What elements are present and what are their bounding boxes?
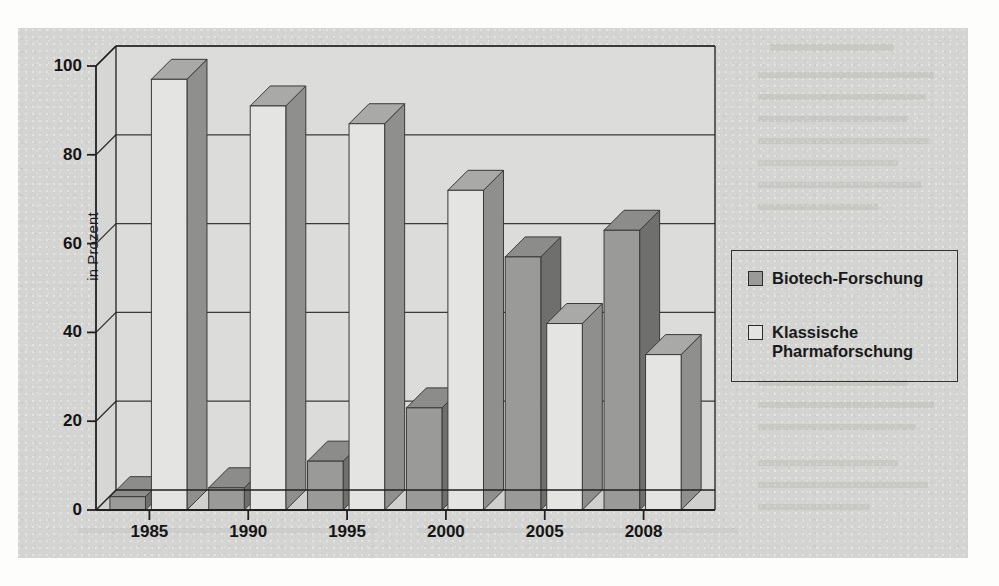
legend-label-klassische: Klassische Pharmaforschung <box>772 323 913 362</box>
y-axis-title: in Prozent <box>84 167 101 327</box>
x-tick-label: 1990 <box>203 522 293 542</box>
scanned-page: in Prozent 020406080100 1985199019952000… <box>0 0 999 586</box>
chart-legend[interactable]: Biotech-Forschung Klassische Pharmaforsc… <box>731 250 958 382</box>
y-tick-label: 40 <box>38 323 82 340</box>
x-tick-label: 1985 <box>104 522 194 542</box>
bar-2005-series1 <box>547 304 603 510</box>
y-tick-label: 80 <box>38 146 82 163</box>
bar-1985-series1 <box>151 59 207 510</box>
x-tick-label: 2005 <box>500 522 590 542</box>
bar-1990-series1 <box>250 86 306 510</box>
y-tick-label: 100 <box>38 57 82 74</box>
bar-1995-series1 <box>349 104 405 510</box>
bar-2000-series1 <box>448 170 504 510</box>
bar-2008-series1 <box>646 335 702 510</box>
legend-swatch-klassische-icon <box>748 325 763 340</box>
legend-label-biotech: Biotech-Forschung <box>772 269 923 288</box>
y-tick-label: 60 <box>38 235 82 252</box>
x-axis-ticks <box>149 510 643 520</box>
bar-chart: in Prozent 020406080100 1985199019952000… <box>18 28 968 558</box>
scan-paper-panel: in Prozent 020406080100 1985199019952000… <box>18 28 968 558</box>
y-tick-label: 20 <box>38 412 82 429</box>
legend-swatch-biotech-icon <box>748 271 763 286</box>
y-tick-label: 0 <box>38 501 82 518</box>
x-tick-label: 1995 <box>302 522 392 542</box>
x-tick-label: 2000 <box>401 522 491 542</box>
legend-item-klassische[interactable]: Klassische Pharmaforschung <box>748 323 913 362</box>
x-tick-label: 2008 <box>599 522 689 542</box>
legend-item-biotech[interactable]: Biotech-Forschung <box>748 269 923 288</box>
